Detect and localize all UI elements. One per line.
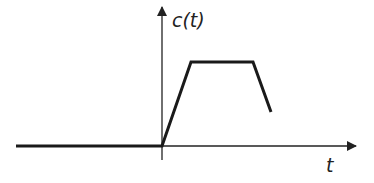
y-axis-label: c(t) [172,11,205,30]
x-axis-label: t [326,156,333,175]
y-axis-label-text: c(t) [172,9,205,31]
signal-diagram: c(t) t [0,0,374,183]
signal-curve [16,62,271,146]
